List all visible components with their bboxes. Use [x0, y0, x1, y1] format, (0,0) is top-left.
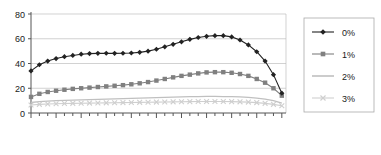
- y-tick-label: 40: [15, 59, 25, 69]
- legend-label: 3%: [342, 94, 355, 104]
- marker-square: [271, 86, 275, 90]
- marker-square: [255, 77, 259, 81]
- marker-square: [62, 88, 66, 92]
- marker-square: [46, 90, 50, 94]
- marker-square: [188, 72, 192, 76]
- marker-square: [104, 84, 108, 88]
- marker-square: [246, 74, 250, 78]
- marker-square: [204, 70, 208, 74]
- marker-square: [163, 77, 167, 81]
- marker-square: [121, 83, 125, 87]
- marker-square: [37, 92, 41, 96]
- marker-square: [87, 85, 91, 89]
- line-chart: 020406080 199520252055208521152145217522…: [0, 0, 381, 155]
- legend-label: 1%: [342, 50, 355, 60]
- marker-square: [229, 71, 233, 75]
- y-tick-label: 20: [15, 84, 25, 94]
- chart-figure: 020406080 199520252055208521152145217522…: [0, 0, 381, 155]
- marker-square: [129, 82, 133, 86]
- marker-square: [179, 74, 183, 78]
- marker-square: [96, 85, 100, 89]
- legend-label: 0%: [342, 28, 355, 38]
- marker-square: [54, 89, 58, 93]
- marker-square: [196, 71, 200, 75]
- marker-square: [146, 80, 150, 84]
- marker-square: [171, 75, 175, 79]
- marker-square: [79, 86, 83, 90]
- marker-square: [137, 81, 141, 85]
- marker-square: [321, 52, 326, 57]
- y-tick-label: 80: [15, 10, 25, 20]
- marker-square: [263, 80, 267, 84]
- marker-square: [213, 70, 217, 74]
- marker-square: [112, 84, 116, 88]
- marker-square: [221, 70, 225, 74]
- y-tick-label: 60: [15, 34, 25, 44]
- marker-square: [238, 72, 242, 76]
- chart-legend: 0%1%2%3%: [304, 18, 374, 112]
- legend-label: 2%: [342, 72, 355, 82]
- marker-square: [154, 78, 158, 82]
- marker-square: [71, 87, 75, 91]
- marker-square: [29, 95, 33, 99]
- y-tick-label: 0: [20, 109, 25, 119]
